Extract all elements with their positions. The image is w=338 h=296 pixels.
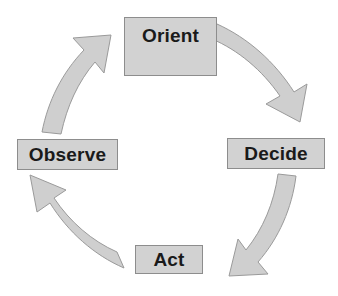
node-act[interactable]: Act — [135, 245, 203, 274]
arrow-act-to-observe — [30, 175, 124, 268]
node-observe[interactable]: Observe — [17, 139, 118, 170]
arrow-decide-to-act — [229, 174, 296, 276]
arrow-orient-to-decide — [212, 24, 307, 122]
node-decide[interactable]: Decide — [227, 138, 325, 169]
node-decide-label: Decide — [244, 144, 308, 163]
ooda-loop-diagram: Orient Decide Act Observe — [0, 0, 338, 296]
node-act-label: Act — [153, 250, 184, 269]
node-orient[interactable]: Orient — [124, 17, 217, 76]
node-observe-label: Observe — [29, 145, 106, 164]
arrow-observe-to-orient — [42, 35, 111, 134]
node-orient-label: Orient — [142, 26, 199, 45]
